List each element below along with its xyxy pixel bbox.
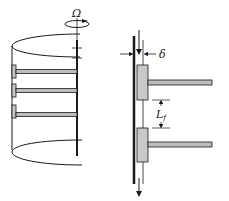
fin-block-top [137, 65, 212, 100]
fin-1 [12, 65, 77, 78]
cylinder-top-ellipse [12, 34, 80, 57]
fin-spacing-dimension: Lf [152, 100, 170, 128]
cylinder-view: Ω [12, 7, 89, 165]
fin-block-bottom [137, 128, 212, 162]
fin-2 [12, 84, 77, 97]
spacing-label: Lf [155, 108, 167, 122]
cylinder-bottom-ellipse [12, 140, 82, 165]
delta-label: δ [159, 48, 166, 61]
omega-label: Ω [71, 7, 81, 20]
cross-section-view: δ Lf [120, 30, 212, 194]
fin-3 [12, 105, 77, 118]
rotating-disk-diagram: Ω δ [0, 0, 229, 201]
